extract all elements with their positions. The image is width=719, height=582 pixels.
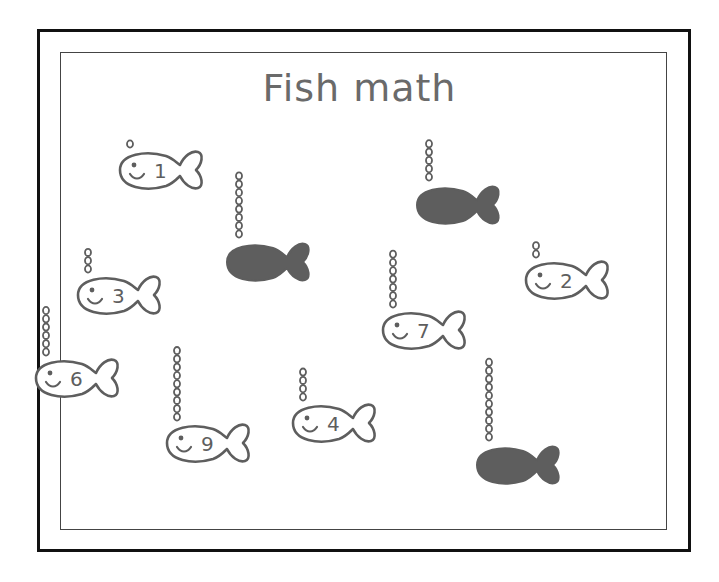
bubble-icon bbox=[486, 425, 492, 432]
bubble-icon bbox=[43, 340, 49, 347]
bubble-icon bbox=[85, 249, 91, 256]
bubble-icon bbox=[426, 140, 432, 147]
labeled-fish-2: 2 bbox=[526, 242, 608, 299]
fish-number-label: 3 bbox=[112, 284, 125, 308]
bubble-icon bbox=[174, 355, 180, 362]
bubble-icon bbox=[486, 433, 492, 440]
bubble-icon bbox=[390, 292, 396, 299]
filled-fish-icon bbox=[227, 244, 309, 281]
bubble-icon bbox=[390, 300, 396, 307]
bubble-icon bbox=[486, 359, 492, 366]
bubble-icon bbox=[300, 369, 306, 376]
bubble-icon bbox=[127, 140, 133, 147]
fish-number-label: 4 bbox=[327, 412, 340, 436]
bubble-icon bbox=[486, 417, 492, 424]
bubble-icon bbox=[43, 332, 49, 339]
bubble-icon bbox=[236, 181, 242, 188]
bubble-icon bbox=[390, 267, 396, 274]
labeled-fish-3: 3 bbox=[78, 249, 160, 314]
filled-fish-icon bbox=[417, 187, 499, 224]
bubble-icon bbox=[236, 214, 242, 221]
fish-eye-icon bbox=[179, 436, 184, 441]
bubble-icon bbox=[300, 385, 306, 392]
bubble-icon bbox=[43, 348, 49, 355]
bubble-icon bbox=[486, 367, 492, 374]
bubble-icon bbox=[43, 315, 49, 322]
labeled-fish-4: 4 bbox=[293, 369, 375, 442]
fish-number-label: 1 bbox=[154, 159, 167, 183]
labeled-fish-9: 9 bbox=[167, 347, 249, 462]
bubble-icon bbox=[426, 157, 432, 164]
fish-eye-icon bbox=[305, 416, 310, 421]
filled-fish-icon bbox=[477, 447, 559, 484]
bubble-icon bbox=[236, 230, 242, 237]
bubble-icon bbox=[174, 397, 180, 404]
bubble-icon bbox=[486, 375, 492, 382]
dark-fish-1 bbox=[227, 172, 309, 280]
bubble-icon bbox=[426, 149, 432, 156]
dark-fish-2 bbox=[417, 140, 499, 223]
bubble-icon bbox=[390, 276, 396, 283]
bubble-icon bbox=[390, 284, 396, 291]
bubble-icon bbox=[390, 251, 396, 258]
bubble-icon bbox=[300, 393, 306, 400]
bubble-icon bbox=[85, 257, 91, 264]
bubble-icon bbox=[486, 400, 492, 407]
bubble-icon bbox=[236, 189, 242, 196]
bubble-icon bbox=[486, 392, 492, 399]
bubble-icon bbox=[426, 165, 432, 172]
bubble-icon bbox=[43, 324, 49, 331]
bubble-icon bbox=[533, 250, 539, 257]
fish-eye-icon bbox=[132, 163, 137, 168]
bubble-icon bbox=[236, 172, 242, 179]
labeled-fish-1: 1 bbox=[120, 140, 202, 188]
bubble-icon bbox=[174, 389, 180, 396]
bubble-icon bbox=[236, 197, 242, 204]
fish-eye-icon bbox=[48, 371, 53, 376]
bubble-icon bbox=[426, 173, 432, 180]
fish-eye-icon bbox=[395, 323, 400, 328]
bubble-icon bbox=[486, 409, 492, 416]
bubble-icon bbox=[236, 222, 242, 229]
fish-scene: 1369472 bbox=[0, 0, 719, 582]
bubble-icon bbox=[486, 384, 492, 391]
bubble-icon bbox=[174, 364, 180, 371]
fish-number-label: 9 bbox=[201, 432, 214, 456]
bubble-icon bbox=[43, 307, 49, 314]
bubble-icon bbox=[174, 380, 180, 387]
dark-fish-3 bbox=[477, 359, 559, 484]
fish-number-label: 6 bbox=[70, 367, 83, 391]
bubble-icon bbox=[300, 377, 306, 384]
labeled-fish-6: 6 bbox=[36, 307, 118, 397]
fish-eye-icon bbox=[538, 273, 543, 278]
fish-number-label: 7 bbox=[417, 319, 430, 343]
labeled-fish-7: 7 bbox=[383, 251, 465, 349]
bubble-icon bbox=[174, 347, 180, 354]
fish-number-label: 2 bbox=[560, 269, 573, 293]
bubble-icon bbox=[533, 242, 539, 249]
bubble-icon bbox=[174, 413, 180, 420]
fish-eye-icon bbox=[90, 288, 95, 293]
bubble-icon bbox=[85, 265, 91, 272]
bubble-icon bbox=[390, 259, 396, 266]
bubble-icon bbox=[174, 405, 180, 412]
bubble-icon bbox=[236, 206, 242, 213]
bubble-icon bbox=[174, 372, 180, 379]
